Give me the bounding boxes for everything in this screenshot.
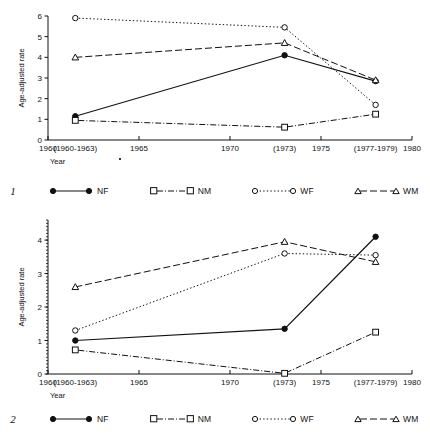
legend-sample-nm-1: [149, 185, 195, 197]
legend-sample-wm-2: [354, 413, 400, 425]
series-line-wf: [75, 253, 375, 330]
legend-item-wm-1[interactable]: WM: [354, 185, 419, 197]
y-tick-label: 6: [38, 12, 43, 21]
y-axis-title: Age-adjusted rate: [17, 48, 26, 107]
x-axis-title: Year: [50, 157, 66, 166]
figure-2-index: 2: [0, 413, 26, 425]
y-tick-label: 2: [38, 95, 43, 104]
data-point-nm-0: [72, 117, 78, 123]
page-speck: [119, 158, 121, 160]
y-tick-label: 3: [38, 270, 43, 279]
legend-sample-wf-1: [251, 185, 297, 197]
x-tick-label: 1975: [312, 144, 330, 153]
x-tick-label: 1980: [403, 378, 421, 387]
data-point-nf-2: [373, 234, 378, 239]
data-point-wf-2: [373, 252, 378, 257]
x-tick-label: 1970: [221, 144, 239, 153]
y-tick-label: 1: [38, 115, 43, 124]
y-tick-label: 4: [38, 236, 43, 245]
legend-item-wf-1[interactable]: WF: [251, 185, 314, 197]
data-point-wm-1: [281, 238, 288, 244]
y-tick-label: 4: [38, 53, 43, 62]
legend-label-nm-1: NM: [198, 186, 212, 196]
legend-label-wf-2: WF: [300, 414, 314, 424]
legend-label-wm-2: WM: [403, 414, 419, 424]
x-point-label: (1977-1979): [354, 144, 398, 153]
data-point-nm-2: [373, 329, 379, 335]
x-tick-label: 1965: [130, 144, 148, 153]
data-point-wm-1: [281, 40, 288, 46]
legend-item-nm-2[interactable]: NM: [149, 413, 212, 425]
x-point-label: (1960-1963): [54, 144, 98, 153]
x-axis-title: Year: [50, 391, 66, 400]
chart-2-legend: 2 NF NM WF: [0, 406, 430, 432]
x-point-label: (1973): [273, 378, 296, 387]
legend-label-nf-1: NF: [97, 186, 109, 196]
data-point-nf-1: [282, 326, 287, 331]
legend-sample-nm-2: [149, 413, 195, 425]
data-point-wf-2: [373, 102, 378, 107]
legend-label-nm-2: NM: [198, 414, 212, 424]
series-line-nm: [75, 114, 375, 127]
series-line-nf: [75, 55, 375, 116]
x-point-label: (1977-1979): [354, 378, 398, 387]
legend-sample-wm-1: [354, 185, 400, 197]
legend-sample-nf-2: [48, 413, 94, 425]
x-point-label: (1960-1963): [54, 378, 98, 387]
figure-1-index: 1: [0, 185, 26, 197]
legend-label-wm-1: WM: [403, 186, 419, 196]
chart-1-plot: 012345619601965197019751980(1960-1963)(1…: [0, 0, 430, 178]
y-tick-label: 2: [38, 303, 43, 312]
data-point-nf-0: [73, 338, 78, 343]
data-point-nm-0: [72, 347, 78, 353]
chart-2-plot: 0123419601965197019751980(1960-1963)(197…: [0, 206, 430, 406]
data-point-wf-1: [282, 25, 287, 30]
series-line-wm: [75, 242, 375, 287]
data-point-nm-1: [282, 370, 288, 376]
legend-sample-nf-1: [48, 185, 94, 197]
x-tick-label: 1965: [130, 378, 148, 387]
x-point-label: (1973): [273, 144, 296, 153]
data-point-wf-0: [73, 15, 78, 20]
data-point-wf-1: [282, 251, 287, 256]
x-tick-label: 1980: [403, 144, 421, 153]
x-tick-label: 1975: [312, 378, 330, 387]
data-point-wf-0: [73, 328, 78, 333]
legend-sample-wf-2: [251, 413, 297, 425]
series-line-wm: [75, 43, 375, 80]
y-axis-title: Age-adjusted rate: [17, 267, 26, 326]
legend-item-wm-2[interactable]: WM: [354, 413, 419, 425]
y-tick-label: 3: [38, 74, 43, 83]
data-point-nf-1: [282, 53, 287, 58]
data-point-nm-1: [282, 124, 288, 130]
legend-item-wf-2[interactable]: WF: [251, 413, 314, 425]
legend-item-nf-2[interactable]: NF: [48, 413, 109, 425]
series-line-wf: [75, 18, 375, 105]
legend-item-nm-1[interactable]: NM: [149, 185, 212, 197]
x-tick-label: 1970: [221, 378, 239, 387]
y-tick-label: 1: [38, 337, 43, 346]
legend-label-wf-1: WF: [300, 186, 314, 196]
data-point-nm-2: [373, 111, 379, 117]
figure-1: 012345619601965197019751980(1960-1963)(1…: [0, 0, 430, 220]
legend-item-nf-1[interactable]: NF: [48, 185, 109, 197]
y-tick-label: 5: [38, 33, 43, 42]
legend-label-nf-2: NF: [97, 414, 109, 424]
chart-1-legend: 1 NF NM WF: [0, 178, 430, 204]
figure-2: 0123419601965197019751980(1960-1963)(197…: [0, 206, 430, 426]
